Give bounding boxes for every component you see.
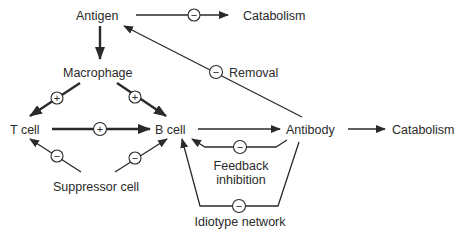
negative-sign-icon: − (233, 200, 246, 213)
negative-sign-icon: − (129, 152, 141, 164)
label-feedback-line2: inhibition (216, 173, 265, 187)
node-antigen: Antigen (76, 9, 118, 23)
negative-sign-icon: − (51, 150, 63, 162)
svg-text:−: − (54, 150, 60, 162)
positive-sign-icon: + (94, 123, 107, 136)
svg-text:−: − (236, 200, 242, 212)
node-t-cell: T cell (10, 123, 40, 137)
svg-text:−: − (213, 66, 219, 78)
node-suppressor-cell: Suppressor cell (53, 180, 139, 194)
positive-sign-icon: + (51, 92, 63, 104)
node-catabolism-right: Catabolism (392, 123, 455, 137)
negative-sign-icon: − (188, 9, 200, 21)
svg-text:−: − (132, 152, 138, 164)
negative-sign-icon: − (234, 141, 247, 154)
positive-sign-icon: + (129, 91, 141, 103)
svg-text:+: + (97, 123, 103, 135)
node-b-cell: B cell (155, 123, 186, 137)
label-removal: Removal (229, 66, 278, 80)
negative-sign-icon: − (210, 66, 223, 79)
svg-text:−: − (191, 9, 197, 21)
node-antibody: Antibody (286, 123, 335, 137)
label-feedback-line1: Feedback (214, 159, 270, 173)
svg-text:−: − (237, 141, 243, 153)
label-idiotype-network: Idiotype network (194, 215, 286, 229)
edge-macrophage-bcell (117, 83, 166, 116)
node-macrophage: Macrophage (63, 66, 133, 80)
node-catabolism-top: Catabolism (243, 9, 306, 23)
svg-text:+: + (54, 92, 60, 104)
svg-text:+: + (132, 91, 138, 103)
immune-regulation-diagram: − + + + − − (0, 0, 465, 233)
